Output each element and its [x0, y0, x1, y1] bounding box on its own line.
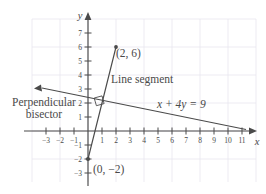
- y-tick-label: 7: [78, 29, 82, 38]
- x-tick-label: 9: [212, 136, 216, 145]
- x-tick-label: 5: [156, 136, 160, 145]
- x-tick-label: 4: [142, 136, 146, 145]
- x-tick-label: 1: [100, 136, 104, 145]
- x-tick-label: 8: [198, 136, 202, 145]
- x-tick-label: 7: [184, 136, 188, 145]
- x-tick-label: 10: [224, 136, 232, 145]
- y-tick-label-neg: −1: [74, 141, 82, 150]
- y-tick-label: 3: [78, 85, 82, 94]
- perpendicular-bisector-label-line1: Perpendicular: [2, 96, 86, 108]
- x-tick-label: 2: [114, 136, 118, 145]
- x-tick-label: 11: [238, 136, 245, 145]
- y-tick-label: 5: [78, 57, 82, 66]
- line-segment-label: Line segment: [111, 73, 173, 85]
- x-axis-name: x: [254, 136, 260, 147]
- x-axis: [24, 128, 257, 135]
- perpendicular-bisector-label-line2: bisector: [2, 108, 86, 120]
- y-axis-name: y: [77, 10, 83, 21]
- x-tick-label: −2: [56, 136, 64, 145]
- x-tick-label: −3: [42, 136, 50, 145]
- y-tick-label-neg: −3: [74, 169, 82, 178]
- point-marker-0-minus2: [86, 157, 90, 161]
- equation-label: x + 4y = 9: [157, 98, 206, 110]
- y-tick-label: 6: [78, 43, 82, 52]
- y-tick-label: 4: [78, 71, 82, 80]
- coordinate-plane-figure: −3 −2 −1 1 2 3 4 5 6 7 8 9 10 11 1 2 3 4…: [0, 0, 266, 194]
- point-label-0-minus2: (0, −2): [93, 163, 124, 175]
- x-tick-label: 3: [128, 136, 132, 145]
- x-tick-label: 6: [170, 136, 174, 145]
- x-axis-tick-labels: −3 −2 −1 1 2 3 4 5 6 7 8 9 10 11: [42, 136, 246, 145]
- perpendicular-bisector-label: Perpendicular bisector: [2, 96, 86, 120]
- point-label-2-6: (2, 6): [116, 47, 141, 59]
- y-tick-label-neg: −2: [74, 155, 82, 164]
